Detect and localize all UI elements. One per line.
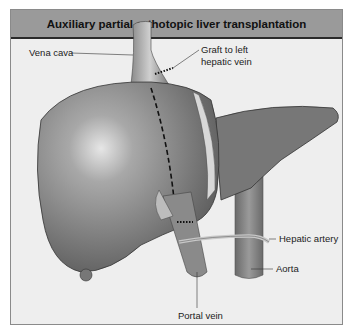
diagram-frame: Auxiliary partial orthotopic liver trans… [10,9,343,325]
label-graft-line2: hepatic vein [201,56,252,67]
label-vena-cava: Vena cava [29,47,73,58]
vena-cava [131,21,169,85]
liver-graft [216,106,338,200]
label-graft-line1: Graft to left [201,44,248,55]
label-aorta: Aorta [276,263,299,274]
label-portal-vein: Portal vein [178,310,223,321]
label-hepatic-artery: Hepatic artery [279,233,338,244]
